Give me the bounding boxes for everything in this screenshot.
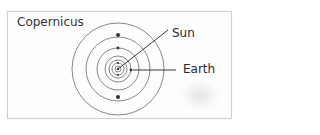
earth-label: Earth: [183, 62, 215, 76]
planet-saturn: [116, 95, 120, 99]
planet-mercury: [117, 62, 119, 64]
sun-label: Sun: [172, 26, 195, 40]
planet-jupiter: [116, 33, 120, 37]
earth-icon: [130, 69, 133, 72]
planet-venus: [117, 74, 119, 76]
planet-mars: [117, 47, 120, 50]
